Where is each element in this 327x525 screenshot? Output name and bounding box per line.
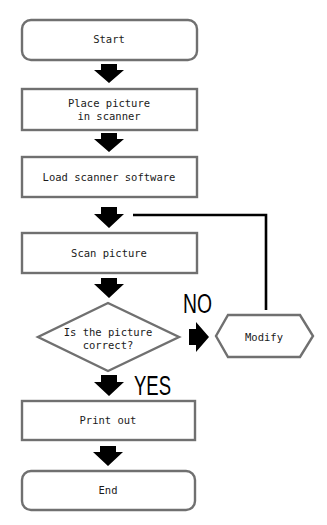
decision-line2: correct? (83, 339, 134, 351)
decision-node: Is the picture correct? (38, 303, 179, 371)
place-picture-line1: Place picture (68, 97, 150, 109)
end-node-label: End (99, 484, 118, 496)
modify-label: Modify (245, 331, 283, 343)
right-arrow-icon (189, 322, 209, 352)
down-arrow-icon (94, 133, 124, 152)
print-out-label: Print out (80, 414, 137, 426)
start-node: Start (22, 20, 197, 60)
down-arrow-icon (94, 278, 124, 298)
place-picture-line2: in scanner (77, 110, 140, 122)
down-arrow-icon (94, 207, 124, 228)
modify-node: Modify (216, 315, 313, 357)
no-branch-label: NO (183, 289, 212, 319)
load-software-node: Load scanner software (22, 157, 197, 197)
place-picture-node: Place picture in scanner (22, 89, 197, 130)
scan-picture-label: Scan picture (71, 247, 147, 259)
load-software-label: Load scanner software (43, 171, 176, 183)
yes-branch-label: YES (134, 371, 171, 401)
print-out-node: Print out (22, 401, 195, 440)
scan-picture-node: Scan picture (22, 233, 197, 273)
down-arrow-icon (94, 64, 124, 83)
decision-line1: Is the picture (64, 326, 153, 338)
end-node: End (22, 471, 195, 510)
start-node-label: Start (93, 33, 125, 45)
down-arrow-icon (94, 375, 124, 396)
flowchart-canvas: Start Place picture in scanner Load scan… (0, 0, 327, 525)
down-arrow-icon (93, 446, 123, 466)
